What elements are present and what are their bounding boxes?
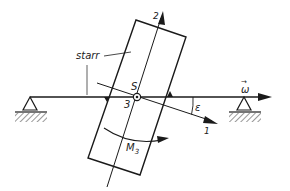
left-bearing-support	[15, 97, 47, 122]
omega-arrowhead-icon	[258, 93, 272, 101]
axis-2-arrowhead-icon	[158, 11, 165, 25]
axis-1-label: 1	[204, 127, 210, 136]
right-bearing-support	[229, 97, 261, 122]
moment-m3-label: M3	[126, 143, 139, 156]
moment-m3-subscript: 3	[135, 148, 139, 156]
center-of-mass-icon	[133, 93, 140, 100]
axis-3-label: 3	[124, 100, 130, 110]
moment-m3-arrow	[104, 128, 169, 143]
axis-2-label: 2	[153, 12, 159, 21]
rigid-body-rotation-diagram	[0, 0, 290, 191]
epsilon-angle-arc	[192, 97, 194, 115]
center-of-mass-label: S	[131, 82, 137, 92]
moment-arrowhead-icon	[157, 136, 169, 143]
starr-leader-line	[104, 52, 131, 56]
moment-m3-symbol: M	[126, 142, 135, 153]
shaft	[30, 93, 272, 101]
omega-label: ω	[241, 85, 249, 95]
starr-label: starr	[76, 51, 99, 61]
axis-1-arrowhead-icon	[203, 116, 218, 124]
contact-marker-left	[104, 97, 110, 102]
epsilon-label: ε	[195, 103, 200, 113]
